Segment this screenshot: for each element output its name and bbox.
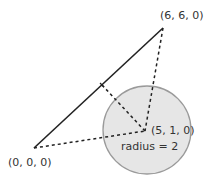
- origin-point-label: (0, 0, 0): [8, 156, 52, 169]
- diagram-canvas: (6, 6, 0) (5, 1, 0) radius = 2 (0, 0, 0): [0, 0, 209, 181]
- end-point-label: (6, 6, 0): [160, 9, 204, 22]
- radius-label: radius = 2: [121, 140, 178, 153]
- center-point-label: (5, 1, 0): [151, 124, 195, 137]
